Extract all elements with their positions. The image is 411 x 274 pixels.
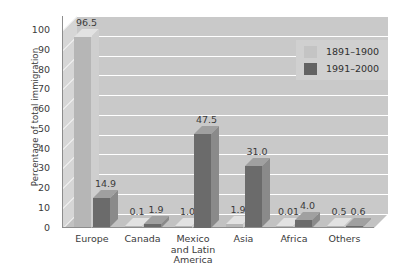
bar-front-face [74, 37, 91, 228]
bar-4-series-1 [295, 220, 312, 228]
category-label-5: Others [310, 234, 380, 245]
y-tick-40: 40 [24, 144, 50, 153]
bar-0-series-0 [74, 37, 91, 228]
y-tick-60: 60 [24, 104, 50, 113]
legend-swatch-1891-1900 [304, 46, 317, 58]
gridline-90 [77, 36, 388, 37]
bar-4-series-0 [276, 226, 293, 227]
value-label-5-series-1: 0.6 [341, 206, 375, 217]
bar-front-face [175, 226, 192, 228]
gridline-30 [77, 154, 388, 155]
bar-2-series-0 [175, 226, 192, 228]
bar-front-face [226, 224, 243, 228]
y-tick-10: 10 [24, 203, 50, 212]
legend-label-1991-2000: 1991–2000 [326, 63, 379, 74]
bar-front-face [276, 226, 293, 227]
y-tick-20: 20 [24, 183, 50, 192]
bar-3-series-1 [245, 166, 262, 227]
bar-2-series-1 [194, 134, 211, 228]
value-label-4-series-1: 4.0 [291, 200, 325, 211]
y-tick-50: 50 [24, 124, 50, 133]
bar-front-face [144, 224, 161, 228]
bar-5-series-0 [327, 226, 344, 227]
y-tick-90: 90 [24, 45, 50, 54]
y-tick-100: 100 [24, 25, 50, 34]
bar-front-face [245, 166, 262, 227]
bar-front-face [194, 134, 211, 228]
bar-front-face [346, 226, 363, 227]
y-tick-70: 70 [24, 84, 50, 93]
category-label-line: America [158, 255, 228, 266]
bar-5-series-1 [346, 226, 363, 227]
gridline-20 [77, 174, 388, 175]
gridline-40 [77, 135, 388, 136]
y-axis-line [62, 16, 63, 228]
immigration-bar-chart: Percentage of total immigration 10090807… [0, 0, 411, 274]
value-label-2-series-1: 47.5 [190, 114, 224, 125]
bar-front-face [295, 220, 312, 228]
legend: 1891–1900 1991–2000 [296, 40, 388, 80]
bar-side-face [262, 158, 270, 227]
y-tick-0: 0 [24, 223, 50, 232]
y-tick-30: 30 [24, 163, 50, 172]
gridline-10 [77, 194, 388, 195]
y-axis-ticks: 1009080706050403020100 [24, 0, 50, 274]
gridline-50 [77, 115, 388, 116]
bar-3-series-0 [226, 224, 243, 228]
bar-side-face [211, 126, 219, 228]
gridline-100 [77, 16, 388, 17]
bar-front-face [125, 226, 142, 227]
bar-0-series-1 [93, 198, 110, 227]
value-label-0-series-0: 96.5 [70, 17, 104, 28]
bar-front-face [327, 226, 344, 227]
legend-swatch-1991-2000 [304, 63, 317, 75]
legend-label-1891-1900: 1891–1900 [326, 46, 379, 57]
bar-front-face [93, 198, 110, 227]
value-label-1-series-1: 1.9 [139, 204, 173, 215]
bar-1-series-1 [144, 224, 161, 228]
bar-1-series-0 [125, 226, 142, 227]
gridline-60 [77, 95, 388, 96]
value-label-3-series-1: 31.0 [240, 146, 274, 157]
y-tick-80: 80 [24, 65, 50, 74]
category-label-line: Others [310, 234, 380, 245]
value-label-0-series-1: 14.9 [89, 178, 123, 189]
